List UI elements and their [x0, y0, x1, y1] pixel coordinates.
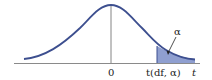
alpha-pointer-arrow: [168, 37, 176, 53]
critical-value-label: t(df, α): [146, 67, 181, 78]
alpha-label: α: [174, 26, 181, 37]
axis-variable-label: t: [192, 67, 197, 78]
zero-label: 0: [108, 67, 114, 78]
t-distribution-diagram: 0 t(df, α) t α: [0, 0, 212, 80]
